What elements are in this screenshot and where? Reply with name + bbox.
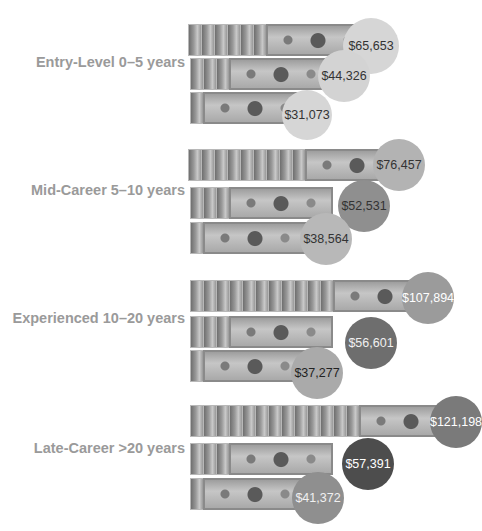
salary-bubble: $31,073 (282, 90, 332, 140)
category-label: Late-Career >20 years (34, 440, 185, 456)
category-label: Mid-Career 5–10 years (31, 182, 185, 198)
salary-bubble: $76,457 (373, 139, 425, 191)
salary-bubble: $44,326 (318, 50, 370, 102)
dollar-bill-icon (229, 316, 333, 348)
salary-bubble: $56,601 (345, 317, 397, 369)
salary-bubble: $121,198 (430, 396, 482, 448)
dollar-bill-icon (203, 222, 307, 254)
dollar-bill-icon (229, 443, 333, 475)
salary-bubble: $38,564 (300, 213, 352, 265)
salary-bubble: $41,372 (292, 472, 344, 524)
salary-bubble: $37,277 (291, 347, 343, 399)
category-label: Experienced 10–20 years (12, 310, 185, 326)
salary-bubble: $107,894 (402, 272, 454, 324)
category-label: Entry-Level 0–5 years (36, 54, 185, 70)
salary-bubble: $57,391 (342, 438, 394, 490)
